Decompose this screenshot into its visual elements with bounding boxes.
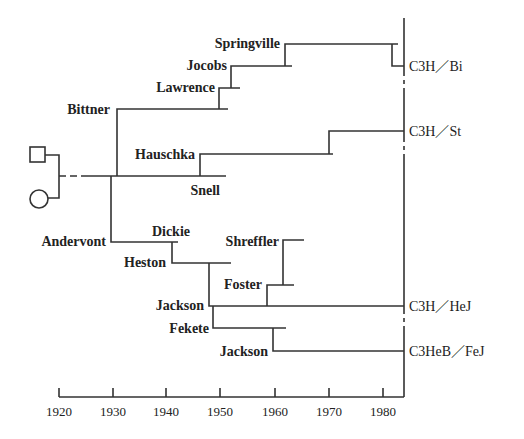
- bi-branch: [392, 44, 404, 66]
- label-foster: Foster: [224, 277, 262, 292]
- label-bittner: Bittner: [67, 102, 110, 117]
- label-dickie: Dickie: [152, 224, 190, 239]
- strain-c3h-bi: C3H／Bi: [409, 59, 463, 74]
- jocobs-branch: [231, 66, 292, 88]
- label-hauschka: Hauschka: [135, 147, 195, 162]
- founder-connector: [45, 155, 59, 198]
- label-jocobs: Jocobs: [187, 58, 228, 73]
- jackson2-branch: [273, 328, 404, 351]
- hauschka-branch: [200, 154, 333, 176]
- label-snell: Snell: [190, 183, 220, 198]
- label-shreffler: Shreffler: [226, 234, 279, 249]
- strain-c3h-st: C3H／St: [409, 124, 461, 139]
- male-founder-square-icon: [30, 147, 45, 162]
- dickie-heston-branch: [172, 242, 231, 263]
- female-founder-circle-icon: [30, 190, 48, 208]
- label-lawrence: Lawrence: [156, 80, 215, 95]
- tick-label: 1940: [153, 404, 179, 419]
- springville-branch: [285, 44, 398, 66]
- tick-label: 1950: [207, 404, 233, 419]
- strain-c3h-hej: C3H／HeJ: [409, 299, 472, 314]
- bittner-branch: [117, 109, 228, 176]
- tick-label: 1920: [46, 404, 72, 419]
- label-springville: Springville: [215, 36, 280, 51]
- st-branch: [329, 131, 404, 154]
- time-axis: [59, 388, 404, 397]
- label-jackson-2: Jackson: [220, 344, 268, 359]
- label-jackson: Jackson: [156, 298, 204, 313]
- lawrence-branch: [219, 88, 240, 109]
- label-heston: Heston: [124, 255, 166, 270]
- shreffler-branch: [283, 240, 304, 285]
- foster-branch: [267, 285, 294, 306]
- tick-label: 1980: [370, 404, 396, 419]
- tick-label: 1970: [316, 404, 342, 419]
- tick-label: 1930: [100, 404, 126, 419]
- tick-label: 1960: [262, 404, 288, 419]
- strain-lineage-diagram: 1920 1930 1940 1950 1960 1970 1980 Bittn…: [0, 0, 524, 439]
- strain-c3heb-fej: C3HeB／FeJ: [409, 344, 485, 359]
- label-andervont: Andervont: [41, 234, 106, 249]
- label-fekete: Fekete: [169, 321, 209, 336]
- fekete-branch: [213, 306, 286, 328]
